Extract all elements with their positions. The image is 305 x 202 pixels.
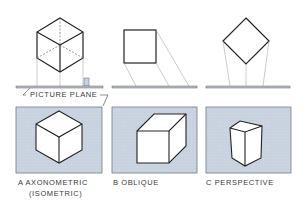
panel-a-label: A AXONOMETRIC [18,178,88,187]
picture-plane-a [16,86,103,88]
oblique-projection [124,30,189,86]
panel-c-label: C PERSPECTIVE [206,178,274,187]
panel-a-sublabel: (ISOMETRIC) [29,189,82,198]
picture-plane-c [206,86,290,88]
panel-b-label: B OBLIQUE [113,178,159,187]
leader-right [100,95,108,106]
projection-diagram [0,0,305,202]
picture-plane-label: PICTURE PLANE [30,90,97,99]
leader-left [23,88,30,95]
picture-plane-b [112,86,197,88]
axonometric-projection [37,18,89,86]
perspective-projection [223,18,269,86]
perspective-cube [230,121,262,166]
